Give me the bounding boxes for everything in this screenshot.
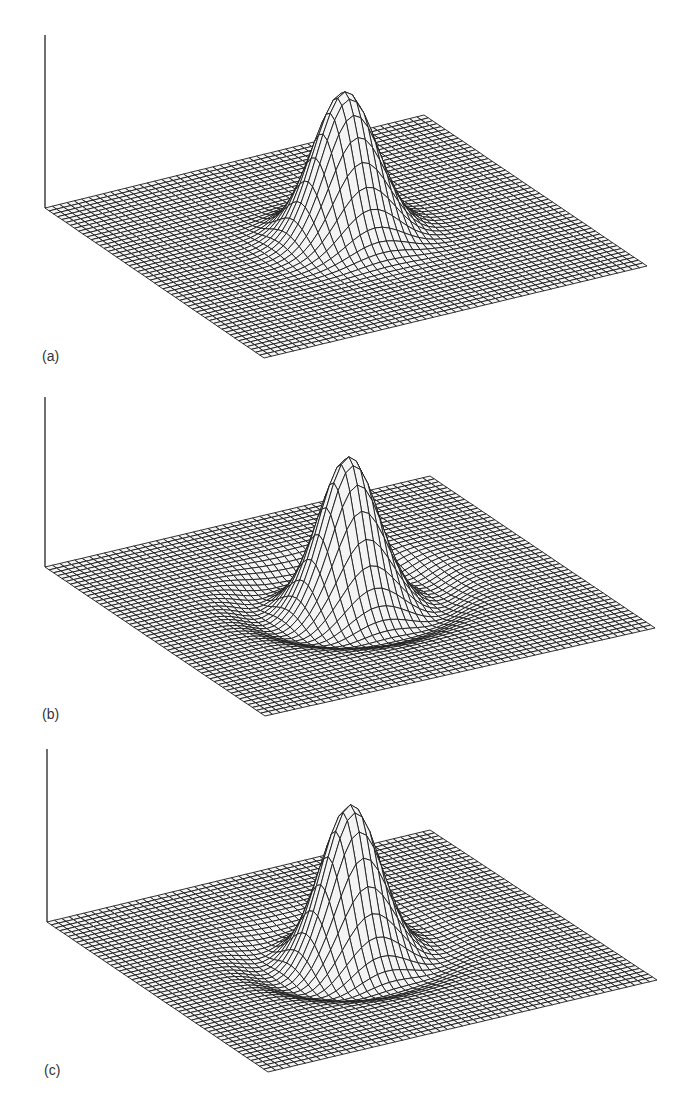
surface-plot-a (0, 0, 679, 375)
surface-plot-b (0, 375, 679, 737)
panel-label-c: (c) (44, 1062, 60, 1078)
wireframe-mesh (47, 805, 657, 1072)
panel-b: (b) (0, 375, 679, 737)
panel-label-a: (a) (42, 348, 59, 364)
panel-label-b: (b) (42, 706, 59, 722)
wireframe-mesh (45, 457, 655, 716)
surface-plot-c (0, 737, 679, 1108)
panel-a: (a) (0, 0, 679, 375)
panel-c: (c) (0, 737, 679, 1108)
wireframe-mesh (45, 92, 647, 358)
